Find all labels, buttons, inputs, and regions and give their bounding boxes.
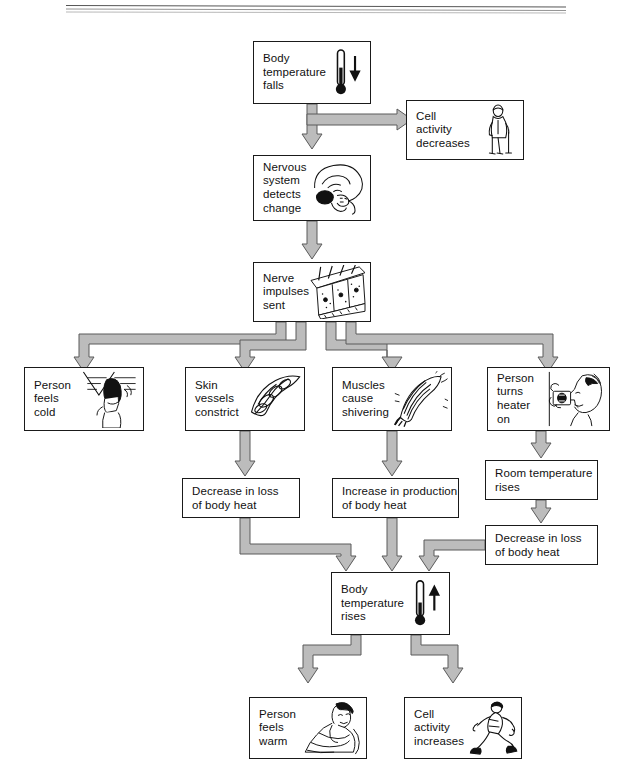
node-label: Body temperature falls [254,52,326,93]
node-person-feels-warm[interactable]: Person feels warm [249,697,367,759]
connector-nervous-to-nerve [302,221,322,259]
connector-decreaseleft-to-bodytemp [240,518,356,571]
node-decrease-loss-right[interactable]: Decrease in loss of body heat [485,525,598,565]
node-label: Person feels warm [250,708,296,749]
cold-person-icon [81,370,140,428]
node-label: Decrease in loss of body heat [486,531,582,559]
running-person-icon [465,700,518,756]
resting-person-icon [303,700,363,756]
node-body-temp-rises[interactable]: Body temperature rises [331,572,450,635]
node-cell-activity-increases[interactable]: Cell activity increases [404,697,522,759]
node-room-temperature-rises[interactable]: Room temperature rises [485,460,598,500]
node-label: Nerve impulses sent [254,272,309,313]
node-cell-activity-decreases[interactable]: Cell activity decreases [406,100,524,160]
node-label: Decrease in loss of body heat [183,484,279,512]
connector-room-to-decrease [531,500,551,523]
node-label: Cell activity decreases [407,110,470,151]
connector-nerve-to-skin [235,322,306,372]
node-label: Increase in production of body heat [333,484,457,512]
node-person-turns-heater-on[interactable]: Person turns heater on [487,367,610,431]
node-label: Cell activity increases [405,708,464,749]
thermometer-up-icon [397,575,446,632]
node-label: Body temperature rises [332,583,404,624]
nerve-cells-icon [309,265,367,319]
elderly-person-icon [476,103,520,157]
node-decrease-loss-left[interactable]: Decrease in loss of body heat [182,478,300,518]
connector-decreaseright-to-bodytemp [419,540,485,571]
muscle-icon [393,370,448,428]
connector-falls-to-nervous [302,104,322,149]
node-body-temp-falls[interactable]: Body temperature falls [253,41,371,104]
connector-bodytemp-to-cellincrease [411,635,463,683]
connector-muscles-to-increase [382,431,402,476]
node-label: Person feels cold [25,379,71,420]
connector-heater-to-room [531,431,551,458]
node-muscles-cause-shivering[interactable]: Muscles cause shivering [332,367,452,431]
node-person-feels-cold[interactable]: Person feels cold [24,367,144,431]
node-label: Muscles cause shivering [333,379,389,420]
node-label: Person turns heater on [488,372,534,426]
node-skin-vessels-constrict[interactable]: Skin vessels constrict [185,367,305,431]
blood-vessel-icon [246,370,301,428]
connector-bodytemp-to-warm [298,635,361,683]
node-nervous-system-detects[interactable]: Nervous system detects change [253,155,371,221]
connector-increase-to-bodytemp [382,518,402,571]
connector-skin-to-decrease [235,431,255,476]
node-label: Room temperature rises [486,466,592,494]
node-label: Skin vessels constrict [186,379,239,420]
flowchart-diagram: Body temperature falls Cell activity dec… [0,0,632,782]
node-label: Nervous system detects change [254,161,307,215]
connector-nerve-to-muscles [326,322,402,372]
connector-falls-to-cell-decrease [307,109,412,130]
heater-person-icon [543,370,606,428]
node-nerve-impulses-sent[interactable]: Nerve impulses sent [253,262,371,322]
node-increase-production[interactable]: Increase in production of body heat [332,478,459,518]
brain-icon [309,158,367,218]
